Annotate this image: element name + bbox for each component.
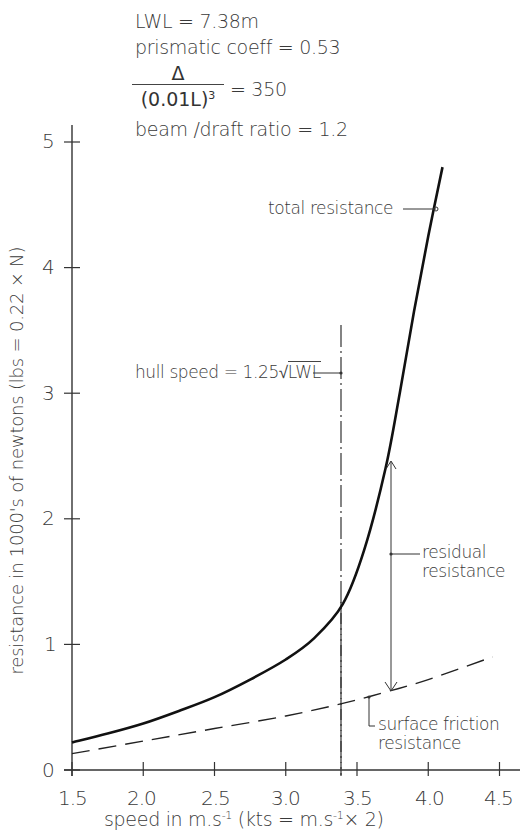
x-axis-label-tail: × 2): [343, 808, 383, 830]
friction-marker: [367, 695, 370, 698]
x-axis-label-main: speed in m.s: [104, 808, 222, 830]
residual-resistance-label: residual resistance: [422, 543, 505, 581]
surface-friction-label: surface friction resistance: [378, 715, 499, 753]
y-tick-label: 3: [42, 381, 54, 405]
x-tick-label: 3.0: [271, 786, 300, 810]
x-tick-label: 3.5: [343, 786, 372, 810]
chart-plot-area: [0, 0, 523, 835]
residual-marker: [389, 552, 392, 555]
x-tick-label: 1.5: [58, 786, 87, 810]
x-axis-label-paren: (kts = m.s: [238, 808, 333, 830]
x-tick-label: 4.5: [484, 786, 513, 810]
total-resistance-label: total resistance: [268, 198, 393, 218]
total-resistance-curve: [72, 167, 443, 742]
friction-line-1: surface friction: [378, 715, 499, 734]
y-axis-label: resistance in 1000's of newtons (lbs = 0…: [6, 255, 27, 675]
y-tick-label: 1: [44, 632, 56, 656]
sqrt-icon: √: [279, 362, 288, 382]
x-axis-ticks: [72, 762, 500, 776]
x-tick-label: 2.5: [201, 786, 230, 810]
y-tick-label: 5: [42, 129, 54, 153]
hull-speed-marker: [339, 371, 342, 374]
x-tick-label: 4.0: [415, 786, 444, 810]
friction-line-2: resistance: [378, 734, 499, 753]
x-axis-label: speed in m.s-1 (kts = m.s-1× 2): [104, 808, 384, 830]
y-tick-label: 2: [42, 506, 54, 530]
hull-speed-root: LWL: [288, 361, 321, 382]
residual-line-2: resistance: [422, 562, 505, 581]
hull-speed-text: hull speed = 1.25: [135, 362, 279, 382]
hull-speed-label: hull speed = 1.25√LWL: [135, 362, 321, 383]
x-tick-label: 2.0: [127, 786, 156, 810]
residual-line-1: residual: [422, 543, 505, 562]
x-axis-label-sup: -1: [222, 809, 232, 822]
y-tick-label: 4: [42, 255, 54, 279]
y-tick-label: 0: [42, 758, 54, 782]
x-axis-label-paren-sup: -1: [333, 809, 343, 822]
